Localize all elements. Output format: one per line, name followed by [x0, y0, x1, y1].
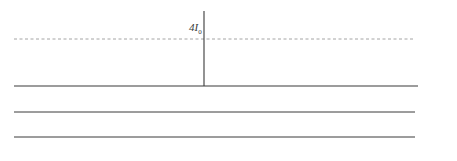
interference-diagram — [0, 0, 457, 161]
peak-intensity-label: 4I0 — [189, 21, 202, 36]
